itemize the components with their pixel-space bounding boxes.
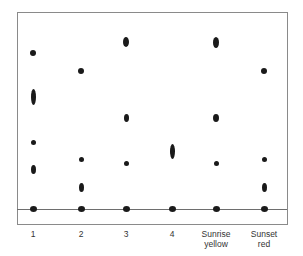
spot bbox=[262, 183, 267, 192]
lane-label-sunset-red-line2: red bbox=[234, 239, 294, 249]
spot bbox=[30, 206, 37, 212]
spot bbox=[31, 89, 36, 105]
spot bbox=[123, 206, 130, 212]
lane-label-sunset-red: Sunset red bbox=[234, 229, 294, 249]
spot bbox=[213, 206, 220, 212]
spot bbox=[170, 144, 175, 159]
spot bbox=[78, 68, 84, 74]
spot bbox=[213, 37, 219, 48]
spot bbox=[169, 206, 176, 212]
spot bbox=[30, 50, 36, 56]
spot bbox=[124, 114, 129, 122]
spot bbox=[31, 165, 36, 174]
baseline-line bbox=[17, 209, 287, 210]
spot bbox=[78, 206, 85, 212]
spot bbox=[214, 161, 219, 166]
spot bbox=[261, 206, 268, 212]
spot bbox=[123, 37, 129, 47]
spot bbox=[79, 157, 84, 162]
spot bbox=[261, 68, 267, 74]
chromatogram-figure: 1 2 3 4 Sunrise yellow Sunset red bbox=[0, 0, 303, 256]
lane-label-sunset-red-line1: Sunset bbox=[234, 229, 294, 239]
chromatogram-frame bbox=[17, 12, 288, 225]
spot bbox=[124, 161, 129, 166]
spot bbox=[31, 140, 36, 145]
spot bbox=[213, 114, 219, 122]
spot bbox=[262, 157, 267, 162]
spot bbox=[79, 183, 84, 192]
